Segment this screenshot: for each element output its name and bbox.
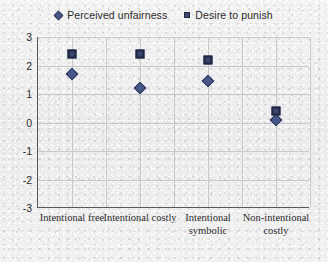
legend-item-perceived-unfairness: Perceived unfairness — [55, 9, 167, 21]
y-axis-tick-label: 0 — [26, 117, 32, 129]
square-marker-icon — [184, 12, 190, 18]
y-axis-tick-label: 3 — [26, 31, 32, 43]
gridline-vertical — [174, 37, 175, 207]
gridline-vertical — [72, 37, 73, 207]
x-axis-label: Non-intentional costly — [239, 212, 313, 237]
data-point-diamond — [66, 68, 79, 81]
gridline-vertical — [242, 37, 243, 207]
data-point-square — [204, 55, 213, 64]
y-axis-tick-label: -1 — [23, 145, 32, 157]
x-axis-label: Intentional costly — [103, 212, 177, 225]
scatter-chart: Perceived unfairness Desire to punish 32… — [0, 0, 328, 262]
data-point-square — [136, 50, 145, 59]
x-axis-label: Intentional free — [35, 212, 109, 225]
gridline-vertical — [140, 37, 141, 207]
gridline-vertical — [310, 37, 311, 207]
legend-label-desire-to-punish: Desire to punish — [195, 9, 272, 21]
data-point-diamond — [202, 75, 215, 88]
y-axis-tick-label: -3 — [23, 202, 32, 214]
data-point-square — [68, 50, 77, 59]
data-point-square — [272, 107, 281, 116]
chart-legend: Perceived unfairness Desire to punish — [0, 9, 328, 21]
data-point-diamond — [134, 82, 147, 95]
legend-label-perceived-unfairness: Perceived unfairness — [67, 9, 167, 21]
y-axis-tick-label: -2 — [23, 174, 32, 186]
gridline-vertical — [106, 37, 107, 207]
plot-area: 3210-1-2-3 Intentional freeIntentional c… — [37, 37, 309, 208]
legend-item-desire-to-punish: Desire to punish — [184, 9, 272, 21]
y-axis-tick-label: 2 — [26, 60, 32, 72]
y-axis-tick-label: 1 — [26, 88, 32, 100]
diamond-marker-icon — [54, 10, 64, 20]
x-axis-label: Intentional symbolic — [171, 212, 245, 237]
